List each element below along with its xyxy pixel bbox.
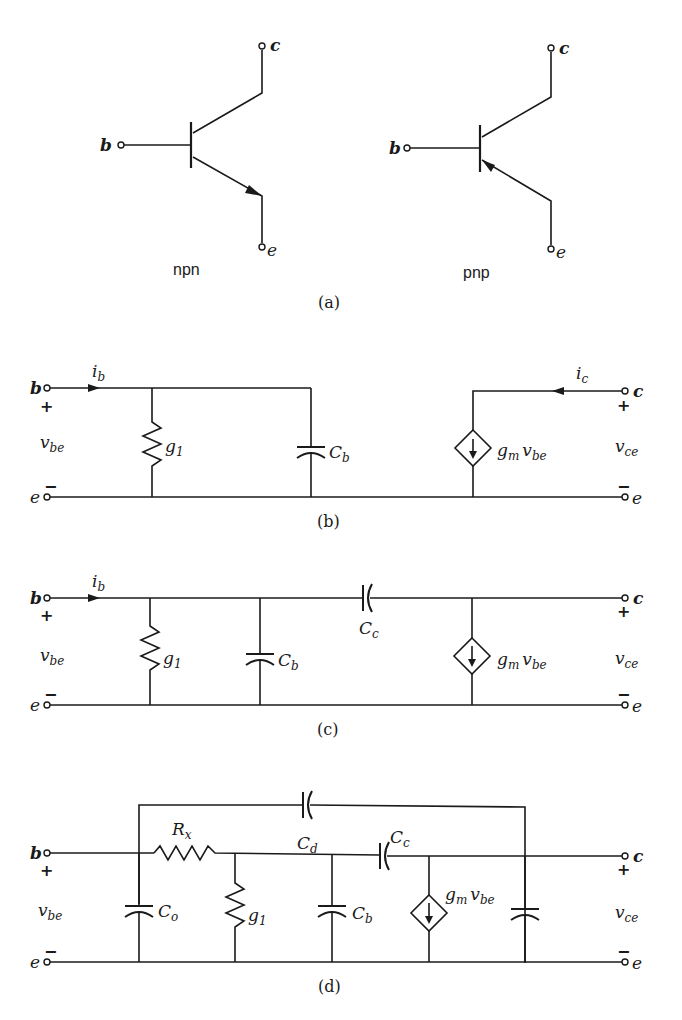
g1-label: g1 [248, 905, 267, 928]
ib-arrow-icon [88, 384, 100, 392]
pnp-symbol: b c e pnp [389, 38, 570, 281]
plus-in: + [40, 861, 53, 880]
e-label-out-c: e [632, 696, 642, 716]
gm-vbe-label-b: gmvbe [497, 440, 547, 463]
dependent-current-source-d [411, 895, 447, 931]
npn-collector-label: c [270, 35, 281, 55]
circuit-d: Cd Rx Cc Co g1 Cb [30, 791, 644, 1003]
pnp-caption: pnp [463, 264, 490, 281]
minus-in: − [44, 685, 57, 704]
caption-b: (b) [317, 512, 340, 531]
minus-in: − [44, 942, 57, 961]
e-label-in: e [30, 695, 40, 715]
ic-arrow-icon [552, 387, 564, 395]
caption-d: (d) [318, 977, 341, 996]
pnp-base-terminal [404, 145, 410, 151]
ib-label-b: ib [92, 361, 105, 384]
resistor-g1 [143, 388, 161, 497]
npn-base-terminal [118, 142, 124, 148]
pnp-emitter-label: e [556, 242, 566, 262]
cb-label: Cb [329, 442, 350, 465]
g1-label: g1 [163, 648, 182, 671]
b-label: b [30, 843, 42, 863]
co-label: Co [158, 901, 178, 924]
emitter-arrow-out-icon [245, 185, 262, 196]
npn-base-label: b [100, 135, 112, 155]
npn-caption: npn [173, 261, 200, 278]
plus-out: + [617, 396, 630, 415]
minus-out: − [617, 685, 630, 704]
plus-out: + [617, 602, 630, 621]
c-terminal [622, 595, 628, 601]
vbe-label-b: vbe [40, 432, 64, 455]
minus-out: − [617, 942, 630, 961]
g1-label: g1 [165, 436, 184, 459]
pnp-emitter-terminal [548, 246, 554, 252]
cb-label: Cb [352, 903, 373, 926]
b-terminal [44, 385, 50, 391]
cb-label: Cb [278, 650, 299, 673]
e-label-out-b: e [632, 488, 642, 508]
npn-collector-terminal [259, 43, 265, 49]
vbe-label-c: vbe [40, 645, 64, 668]
cc-label: Cc [390, 827, 410, 850]
ic-label-b: ic [576, 363, 588, 386]
gm-vbe-label-d: gmvbe [445, 884, 495, 907]
npn-emitter-label: e [267, 240, 277, 260]
resistor-g1 [141, 598, 159, 705]
dependent-current-source-c [454, 638, 490, 674]
c-label-b: c [633, 381, 644, 401]
transistor-figure: b c e npn b c e pnp (a) g1 Cb [0, 0, 682, 1020]
dependent-current-source-b [455, 430, 491, 466]
ib-arrow-icon [88, 594, 100, 602]
npn-emitter-terminal [259, 244, 265, 250]
vbe-label-d: vbe [38, 900, 62, 923]
vce-label-b: vce [615, 436, 638, 459]
plus-in: + [40, 606, 53, 625]
c-label-c: c [633, 588, 644, 608]
minus-out: − [617, 477, 630, 496]
caption-a: (a) [318, 293, 340, 312]
plus-out: + [617, 860, 630, 879]
b-terminal [44, 595, 50, 601]
emitter-arrow-in-icon [482, 160, 495, 172]
e-label-in: e [30, 952, 40, 972]
pnp-base-label: b [389, 138, 401, 158]
minus-in: − [44, 477, 57, 496]
vce-label-c: vce [615, 648, 638, 671]
pnp-collector-terminal [548, 45, 554, 51]
cd-label: Cd [297, 833, 318, 856]
c-terminal [622, 388, 628, 394]
e-label-out-d: e [632, 953, 642, 973]
caption-c: (c) [317, 720, 338, 739]
cc-label: Cc [359, 618, 379, 641]
b-label: b [30, 378, 42, 398]
ib-label-c: ib [92, 571, 105, 594]
vce-label-d: vce [615, 902, 638, 925]
circuit-b: g1 Cb gmvbe b e + − vbe ib ic c e + − vc… [30, 361, 644, 508]
npn-symbol: b c e npn [100, 35, 281, 278]
b-terminal [44, 850, 50, 856]
e-label-in: e [30, 487, 40, 507]
rx-label: Rx [171, 819, 192, 842]
resistor-rx [154, 846, 380, 860]
plus-in: + [40, 397, 53, 416]
circuit-c: Cc g1 Cb gmvbe b e + − vbe ib c e + − vc… [30, 571, 644, 716]
b-label: b [30, 588, 42, 608]
c-terminal [622, 853, 628, 859]
resistor-g1 [226, 854, 244, 962]
pnp-collector-label: c [559, 38, 570, 58]
gm-vbe-label-c: gmvbe [497, 649, 547, 672]
c-label-d: c [633, 846, 644, 866]
